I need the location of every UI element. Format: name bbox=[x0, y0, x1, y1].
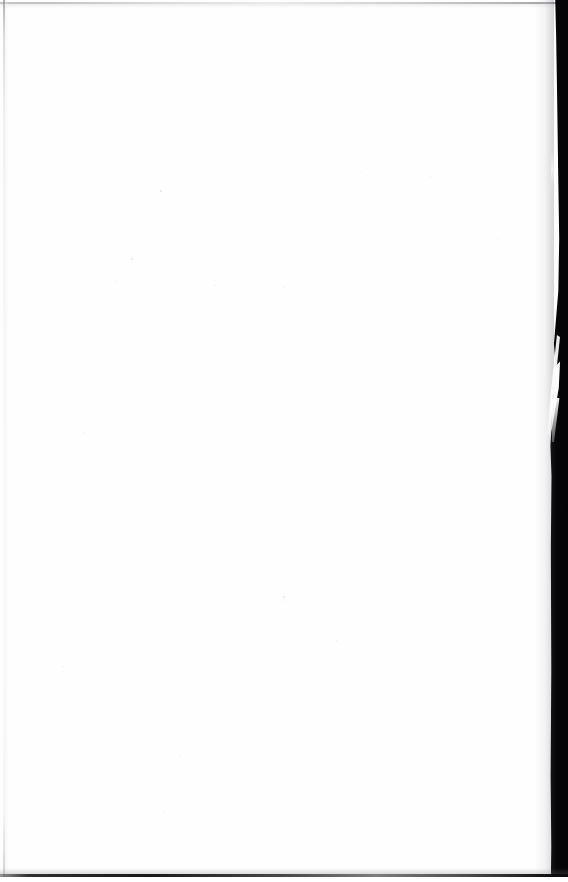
bottom-edge-margin bbox=[0, 877, 568, 882]
left-edge-shadow bbox=[5, 0, 9, 882]
top-edge-shadow bbox=[0, 4, 568, 8]
bottom-edge-line bbox=[0, 874, 568, 877]
top-edge-line bbox=[0, 2, 568, 4]
left-edge-line bbox=[3, 0, 5, 882]
scanned-page bbox=[0, 0, 568, 882]
page-paper-surface bbox=[0, 0, 568, 882]
